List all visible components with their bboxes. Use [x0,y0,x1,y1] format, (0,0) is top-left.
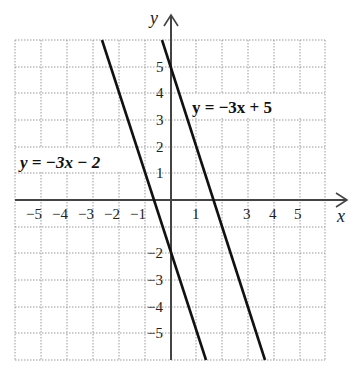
equation-label-2: y = −3x + 5 [192,98,272,117]
svg-text:−4: −4 [52,206,68,222]
equation-label-1: y = −3x − 2 [18,153,101,172]
coordinate-plane: x y −5 −4 −3 −2 −1 1 3 4 5 5 4 3 2 1 −2 … [0,0,364,380]
svg-text:−2: −2 [104,206,120,222]
svg-text:−5: −5 [26,206,42,222]
svg-text:3: 3 [243,206,251,222]
y-axis-label: y [148,8,158,28]
svg-text:4: 4 [156,85,164,101]
svg-text:4: 4 [269,206,277,222]
x-tick-labels: −5 −4 −3 −2 −1 1 3 4 5 [26,206,302,222]
svg-text:5: 5 [294,206,302,222]
svg-text:1: 1 [192,206,200,222]
svg-text:−2: −2 [147,245,163,261]
x-axis-label: x [336,206,345,226]
svg-text:−3: −3 [147,272,163,288]
svg-text:2: 2 [156,139,164,155]
svg-text:5: 5 [156,59,164,75]
svg-text:−3: −3 [78,206,94,222]
svg-text:−4: −4 [147,299,163,315]
svg-text:1: 1 [156,165,164,181]
svg-text:3: 3 [156,112,164,128]
svg-text:−1: −1 [130,206,146,222]
svg-text:−5: −5 [147,325,163,341]
